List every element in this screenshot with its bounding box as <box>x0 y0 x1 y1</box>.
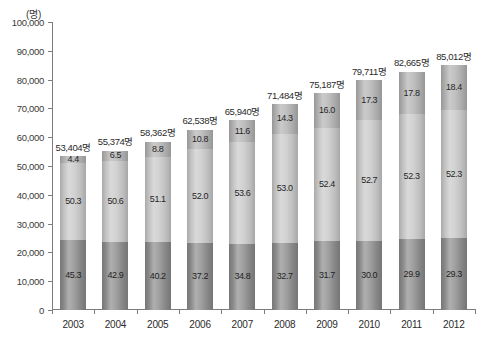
bar-segment-top[interactable]: 4.4 <box>60 156 86 163</box>
bar-segment-top[interactable]: 17.8 <box>399 72 425 114</box>
bar-segment-value: 14.3 <box>277 114 293 123</box>
bar-segment-value: 52.4 <box>319 180 335 189</box>
y-axis-tick-label: 0 <box>39 305 44 316</box>
x-axis-category-label: 2007 <box>232 319 253 330</box>
bar-segment-value: 45.3 <box>65 271 81 280</box>
bar-segment-middle[interactable]: 52.0 <box>187 149 213 243</box>
y-axis-tick-label: 30,000 <box>17 218 44 229</box>
plot-area: 100,00090,00080,00070,00060,00050,00040,… <box>52 22 475 310</box>
x-axis-category-label: 2003 <box>62 319 83 330</box>
x-axis-tick <box>433 309 434 314</box>
bar-total-label: 53,404명 <box>56 143 91 153</box>
x-axis-tick <box>348 309 349 314</box>
bar-segment-top[interactable]: 18.4 <box>441 65 467 110</box>
x-axis-tick <box>475 309 476 314</box>
x-axis-category-label: 2012 <box>443 319 464 330</box>
bar-segment-value: 42.9 <box>107 271 123 280</box>
bar-segment-middle[interactable]: 50.6 <box>102 161 128 242</box>
bar-segment-value: 53.6 <box>234 189 250 198</box>
bar-segment-bottom[interactable]: 34.8 <box>229 244 255 310</box>
bar-segment-middle[interactable]: 52.7 <box>356 120 382 241</box>
bar-segment-bottom[interactable]: 32.7 <box>272 243 298 310</box>
bar-segment-bottom[interactable]: 37.2 <box>187 243 213 310</box>
bar-segment-middle[interactable]: 52.3 <box>399 114 425 239</box>
stacked-bar[interactable]: 8.851.140.2 <box>145 142 171 310</box>
x-axis-tick <box>390 309 391 314</box>
bar-total-label: 82,665명 <box>394 58 429 68</box>
bar-segment-value: 18.4 <box>446 83 462 92</box>
bar-segment-value: 53.0 <box>277 184 293 193</box>
bar-segment-value: 10.8 <box>192 135 208 144</box>
bar-segment-value: 50.3 <box>65 197 81 206</box>
bar-segment-bottom[interactable]: 42.9 <box>102 242 128 310</box>
bar-segment-middle[interactable]: 53.6 <box>229 142 255 244</box>
bar-segment-top[interactable]: 6.5 <box>102 151 128 161</box>
x-axis-tick <box>306 309 307 314</box>
stacked-bar[interactable]: 17.852.329.9 <box>399 72 425 310</box>
bar-segment-value: 16.0 <box>319 106 335 115</box>
bar-segment-middle[interactable]: 52.3 <box>441 110 467 238</box>
x-axis-category-label: 2005 <box>147 319 168 330</box>
bar-segment-value: 17.3 <box>361 96 377 105</box>
bar-segment-value: 52.3 <box>446 170 462 179</box>
bar-segment-value: 52.0 <box>192 192 208 201</box>
x-axis-category-label: 2004 <box>105 319 126 330</box>
stacked-bar[interactable]: 4.450.345.3 <box>60 156 86 310</box>
stacked-bar[interactable]: 18.452.329.3 <box>441 65 467 310</box>
x-axis-category-label: 2011 <box>401 319 422 330</box>
bar-segment-value: 30.0 <box>361 271 377 280</box>
bar-segment-value: 8.8 <box>152 145 163 154</box>
bar-segment-value: 32.7 <box>277 272 293 281</box>
bar-segment-value: 17.8 <box>404 89 420 98</box>
bar-segment-bottom[interactable]: 45.3 <box>60 240 86 310</box>
bar-segment-top[interactable]: 11.6 <box>229 120 255 142</box>
bar-segment-value: 4.4 <box>67 156 78 163</box>
bar-segment-value: 29.9 <box>404 270 420 279</box>
bar-total-label: 75,187명 <box>309 80 344 90</box>
bar-segment-value: 6.5 <box>110 151 121 160</box>
y-axis-tick-label: 60,000 <box>17 132 44 143</box>
y-axis-tick-label: 40,000 <box>17 189 44 200</box>
y-axis-tick-label: 10,000 <box>17 276 44 287</box>
stacked-bar[interactable]: 11.653.634.8 <box>229 120 255 310</box>
stacked-bar[interactable]: 17.352.730.0 <box>356 80 382 310</box>
bar-segment-value: 40.2 <box>150 272 166 281</box>
bar-total-label: 58,362명 <box>140 128 175 138</box>
stacked-bar[interactable]: 6.550.642.9 <box>102 151 128 310</box>
bar-segment-top[interactable]: 14.3 <box>272 104 298 133</box>
y-axis-tick-label: 70,000 <box>17 103 44 114</box>
bar-segment-top[interactable]: 8.8 <box>145 142 171 157</box>
bar-segment-top[interactable]: 17.3 <box>356 80 382 120</box>
bar-segment-bottom[interactable]: 31.7 <box>314 241 340 310</box>
bar-total-label: 55,374명 <box>98 137 133 147</box>
bar-segment-bottom[interactable]: 40.2 <box>145 242 171 310</box>
bar-segment-middle[interactable]: 51.1 <box>145 157 171 243</box>
bar-segment-value: 29.3 <box>446 270 462 279</box>
x-axis-tick <box>179 309 180 314</box>
x-axis-tick <box>137 309 138 314</box>
stacked-bar[interactable]: 10.852.037.2 <box>187 130 213 310</box>
x-axis-category-label: 2006 <box>189 319 210 330</box>
bar-segment-bottom[interactable]: 29.3 <box>441 238 467 310</box>
bar-segment-top[interactable]: 10.8 <box>187 130 213 149</box>
stacked-bar[interactable]: 14.353.032.7 <box>272 104 298 310</box>
bar-segment-value: 52.7 <box>361 176 377 185</box>
x-axis-tick <box>94 309 95 314</box>
bar-segment-middle[interactable]: 50.3 <box>60 163 86 240</box>
bar-total-label: 65,940명 <box>225 107 260 117</box>
bar-segment-top[interactable]: 16.0 <box>314 93 340 128</box>
bar-segment-bottom[interactable]: 29.9 <box>399 239 425 310</box>
bar-segment-bottom[interactable]: 30.0 <box>356 241 382 310</box>
y-axis-tick-label: 100,000 <box>12 17 44 28</box>
y-axis-tick-label: 80,000 <box>17 74 44 85</box>
bar-segment-middle[interactable]: 52.4 <box>314 128 340 241</box>
y-axis-tick-label: 50,000 <box>17 161 44 172</box>
x-axis-category-label: 2008 <box>274 319 295 330</box>
x-axis-tick <box>264 309 265 314</box>
y-axis-tick-label: 20,000 <box>17 247 44 258</box>
bar-segment-middle[interactable]: 53.0 <box>272 134 298 243</box>
bar-segment-value: 51.1 <box>150 195 166 204</box>
x-axis-tick <box>52 309 53 314</box>
bar-segment-value: 37.2 <box>192 272 208 281</box>
stacked-bar[interactable]: 16.052.431.7 <box>314 93 340 310</box>
